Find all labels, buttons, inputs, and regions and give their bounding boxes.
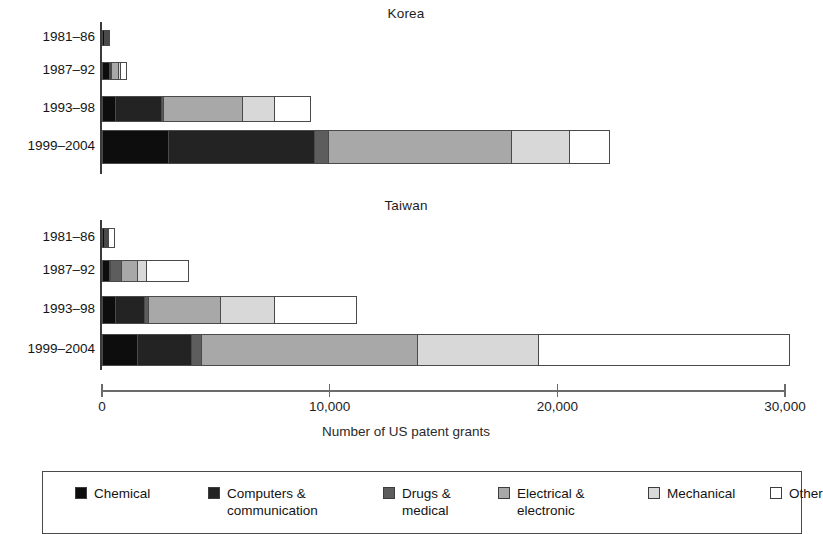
legend-item: Chemical: [75, 485, 150, 502]
bar-row: 1999–2004: [0, 334, 812, 366]
bar-segment-computers-communication: [137, 334, 192, 366]
bar-segment-mechanical: [220, 296, 275, 324]
legend-label: Drugs & medical: [402, 485, 451, 519]
bar-row: 1993–98: [0, 96, 812, 122]
stacked-bar: [102, 260, 194, 282]
stacked-bar: [102, 228, 118, 248]
bar-segment-other: [274, 96, 310, 122]
bar-segment-other: [146, 260, 189, 282]
stacked-bar: [102, 130, 615, 164]
legend-item: Computers & communication: [208, 485, 318, 519]
legend-swatch-icon: [208, 487, 220, 499]
bar-row-label: 1981–86: [0, 29, 95, 44]
bar-segment-other: [569, 130, 610, 164]
legend-swatch-icon: [383, 487, 395, 499]
panel-title-taiwan: Taiwan: [0, 198, 812, 213]
x-axis-tick-label: 10,000: [309, 399, 350, 414]
bar-segment-computers-communication: [168, 130, 315, 164]
bar-segment-mechanical: [511, 130, 570, 164]
x-axis-tick: [329, 384, 331, 397]
x-axis-tick-label: 0: [98, 399, 106, 414]
stacked-bar: [102, 296, 362, 324]
bar-segment-mechanical: [242, 96, 275, 122]
bar-row-label: 1987–92: [0, 62, 95, 77]
bar-segment-computers-communication: [115, 96, 163, 122]
stacked-bar: [102, 334, 795, 366]
x-axis-line: [101, 390, 785, 392]
bar-row-label: 1999–2004: [0, 341, 95, 356]
bar-segment-electrical-electronic: [148, 296, 221, 324]
legend-swatch-icon: [498, 487, 510, 499]
bar-segment-other: [120, 62, 128, 80]
x-axis-tick-label: 20,000: [537, 399, 578, 414]
bar-row-label: 1987–92: [0, 262, 95, 277]
bar-segment-drugs-medical: [314, 130, 329, 164]
legend-label: Mechanical: [667, 485, 735, 502]
bar-segment-electrical-electronic: [328, 130, 511, 164]
legend-swatch-icon: [770, 487, 782, 499]
bar-row: 1987–92: [0, 62, 812, 80]
bar-segment-other: [538, 334, 791, 366]
legend-label: Chemical: [94, 485, 150, 502]
bar-segment-computers-communication: [115, 296, 145, 324]
stacked-bar: [102, 96, 316, 122]
bar-row: 1987–92: [0, 260, 812, 282]
bar-row: 1981–86: [0, 228, 812, 248]
x-axis-tick: [557, 384, 559, 397]
legend-swatch-icon: [648, 487, 660, 499]
bar-row: 1981–86: [0, 30, 812, 46]
bar-segment-chemical: [102, 130, 169, 164]
legend-item: Mechanical: [648, 485, 735, 502]
bar-row-label: 1999–2004: [0, 138, 95, 153]
x-axis-title: Number of US patent grants: [0, 424, 812, 439]
legend-label: Other: [789, 485, 823, 502]
stacked-bar: [102, 30, 110, 46]
bar-segment-other: [108, 30, 110, 46]
legend-label: Computers & communication: [227, 485, 318, 519]
bar-segment-chemical: [102, 96, 116, 122]
bar-segment-chemical: [102, 334, 138, 366]
legend-item: Drugs & medical: [383, 485, 451, 519]
bar-row: 1993–98: [0, 296, 812, 324]
legend-label: Electrical & electronic: [517, 485, 585, 519]
x-axis-tick: [784, 384, 786, 397]
panel-taiwan: Taiwan 1981–861987–921993–981999–2004: [0, 196, 812, 376]
x-axis-tick-label: 30,000: [764, 399, 805, 414]
x-axis-tick: [101, 384, 103, 397]
legend-swatch-icon: [75, 487, 87, 499]
stacked-bar: [102, 62, 131, 80]
bar-segment-other: [108, 228, 115, 248]
legend-item: Other: [770, 485, 823, 502]
bar-segment-electrical-electronic: [121, 260, 138, 282]
bar-segment-chemical: [102, 296, 116, 324]
bar-segment-other: [274, 296, 356, 324]
bar-segment-mechanical: [417, 334, 538, 366]
panel-title-korea: Korea: [0, 6, 812, 21]
bar-row-label: 1981–86: [0, 229, 95, 244]
legend: ChemicalComputers & communicationDrugs &…: [42, 471, 802, 534]
x-axis: 010,00020,00030,000 Number of US patent …: [0, 376, 812, 436]
legend-item: Electrical & electronic: [498, 485, 585, 519]
panel-korea: Korea 1981–861987–921993–981999–2004: [0, 0, 812, 190]
bar-row-label: 1993–98: [0, 301, 95, 316]
bar-row: 1999–2004: [0, 130, 812, 164]
bar-segment-electrical-electronic: [201, 334, 418, 366]
bar-segment-electrical-electronic: [163, 96, 243, 122]
bar-row-label: 1993–98: [0, 100, 95, 115]
